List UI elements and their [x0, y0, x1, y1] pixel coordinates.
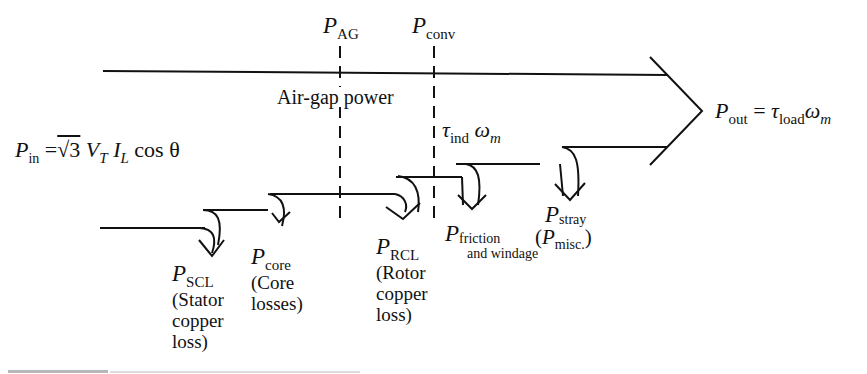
loss-label-friction-windage: Pfriction and windage [445, 222, 538, 261]
cropped-caption-tail [110, 371, 360, 373]
loss-label-stray: Pstray (Pmisc.) [535, 203, 592, 248]
output-power-equation: Pout = τloadωm [715, 100, 831, 122]
air-gap-power-label: Air-gap power [275, 87, 396, 107]
cropped-caption [8, 370, 108, 373]
loss-label-scl: PSCL (Stator copper loss) [172, 262, 224, 352]
output-arrowhead [650, 57, 702, 165]
label-p-ag: PAG [323, 14, 359, 37]
loss-arrow-rcl [395, 194, 406, 212]
loss-label-core: Pcore (Core losses) [251, 245, 303, 314]
loss-label-rcl: PRCL (Rotor copper loss) [376, 235, 428, 325]
induced-torque-label: τind ωm [442, 119, 501, 141]
label-p-conv: Pconv [412, 14, 455, 37]
loss-arrow-core [268, 194, 284, 226]
power-flow-diagram [0, 0, 867, 374]
input-power-top-line [103, 71, 668, 75]
input-power-equation: Pin =√3 VT IL cos θ [15, 139, 180, 161]
